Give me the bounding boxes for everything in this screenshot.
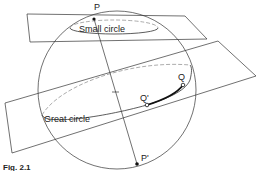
label-small-circle: Small circle (79, 24, 125, 34)
label-q: Q (178, 72, 185, 82)
great-circle-plane (5, 41, 256, 153)
point-p-prime (135, 162, 139, 166)
point-q-prime (145, 103, 149, 107)
point-p (92, 17, 95, 20)
figure-caption: Fig. 2.1 (3, 163, 31, 171)
arc-q-qprime (147, 85, 183, 105)
great-circle-front (42, 65, 192, 120)
label-p: P (94, 2, 100, 12)
great-circle-back (42, 64, 190, 115)
label-q-prime: Q' (140, 93, 149, 103)
label-p-prime: P' (141, 153, 149, 163)
sphere-outline (38, 11, 196, 169)
sphere-diagram: P Small circle Q Q' Great circle P' Fig.… (0, 0, 257, 171)
label-great-circle: Great circle (44, 114, 90, 124)
point-q (181, 83, 185, 87)
